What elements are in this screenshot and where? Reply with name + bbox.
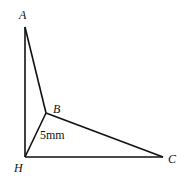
label-B: B <box>53 102 61 116</box>
tetrahedron-diagram: A B H C 5mm <box>0 0 186 180</box>
label-H: H <box>13 161 24 175</box>
label-A: A <box>18 8 27 22</box>
measurement-BH: 5mm <box>40 128 65 142</box>
label-C: C <box>168 152 177 166</box>
edge-AB <box>25 27 46 113</box>
